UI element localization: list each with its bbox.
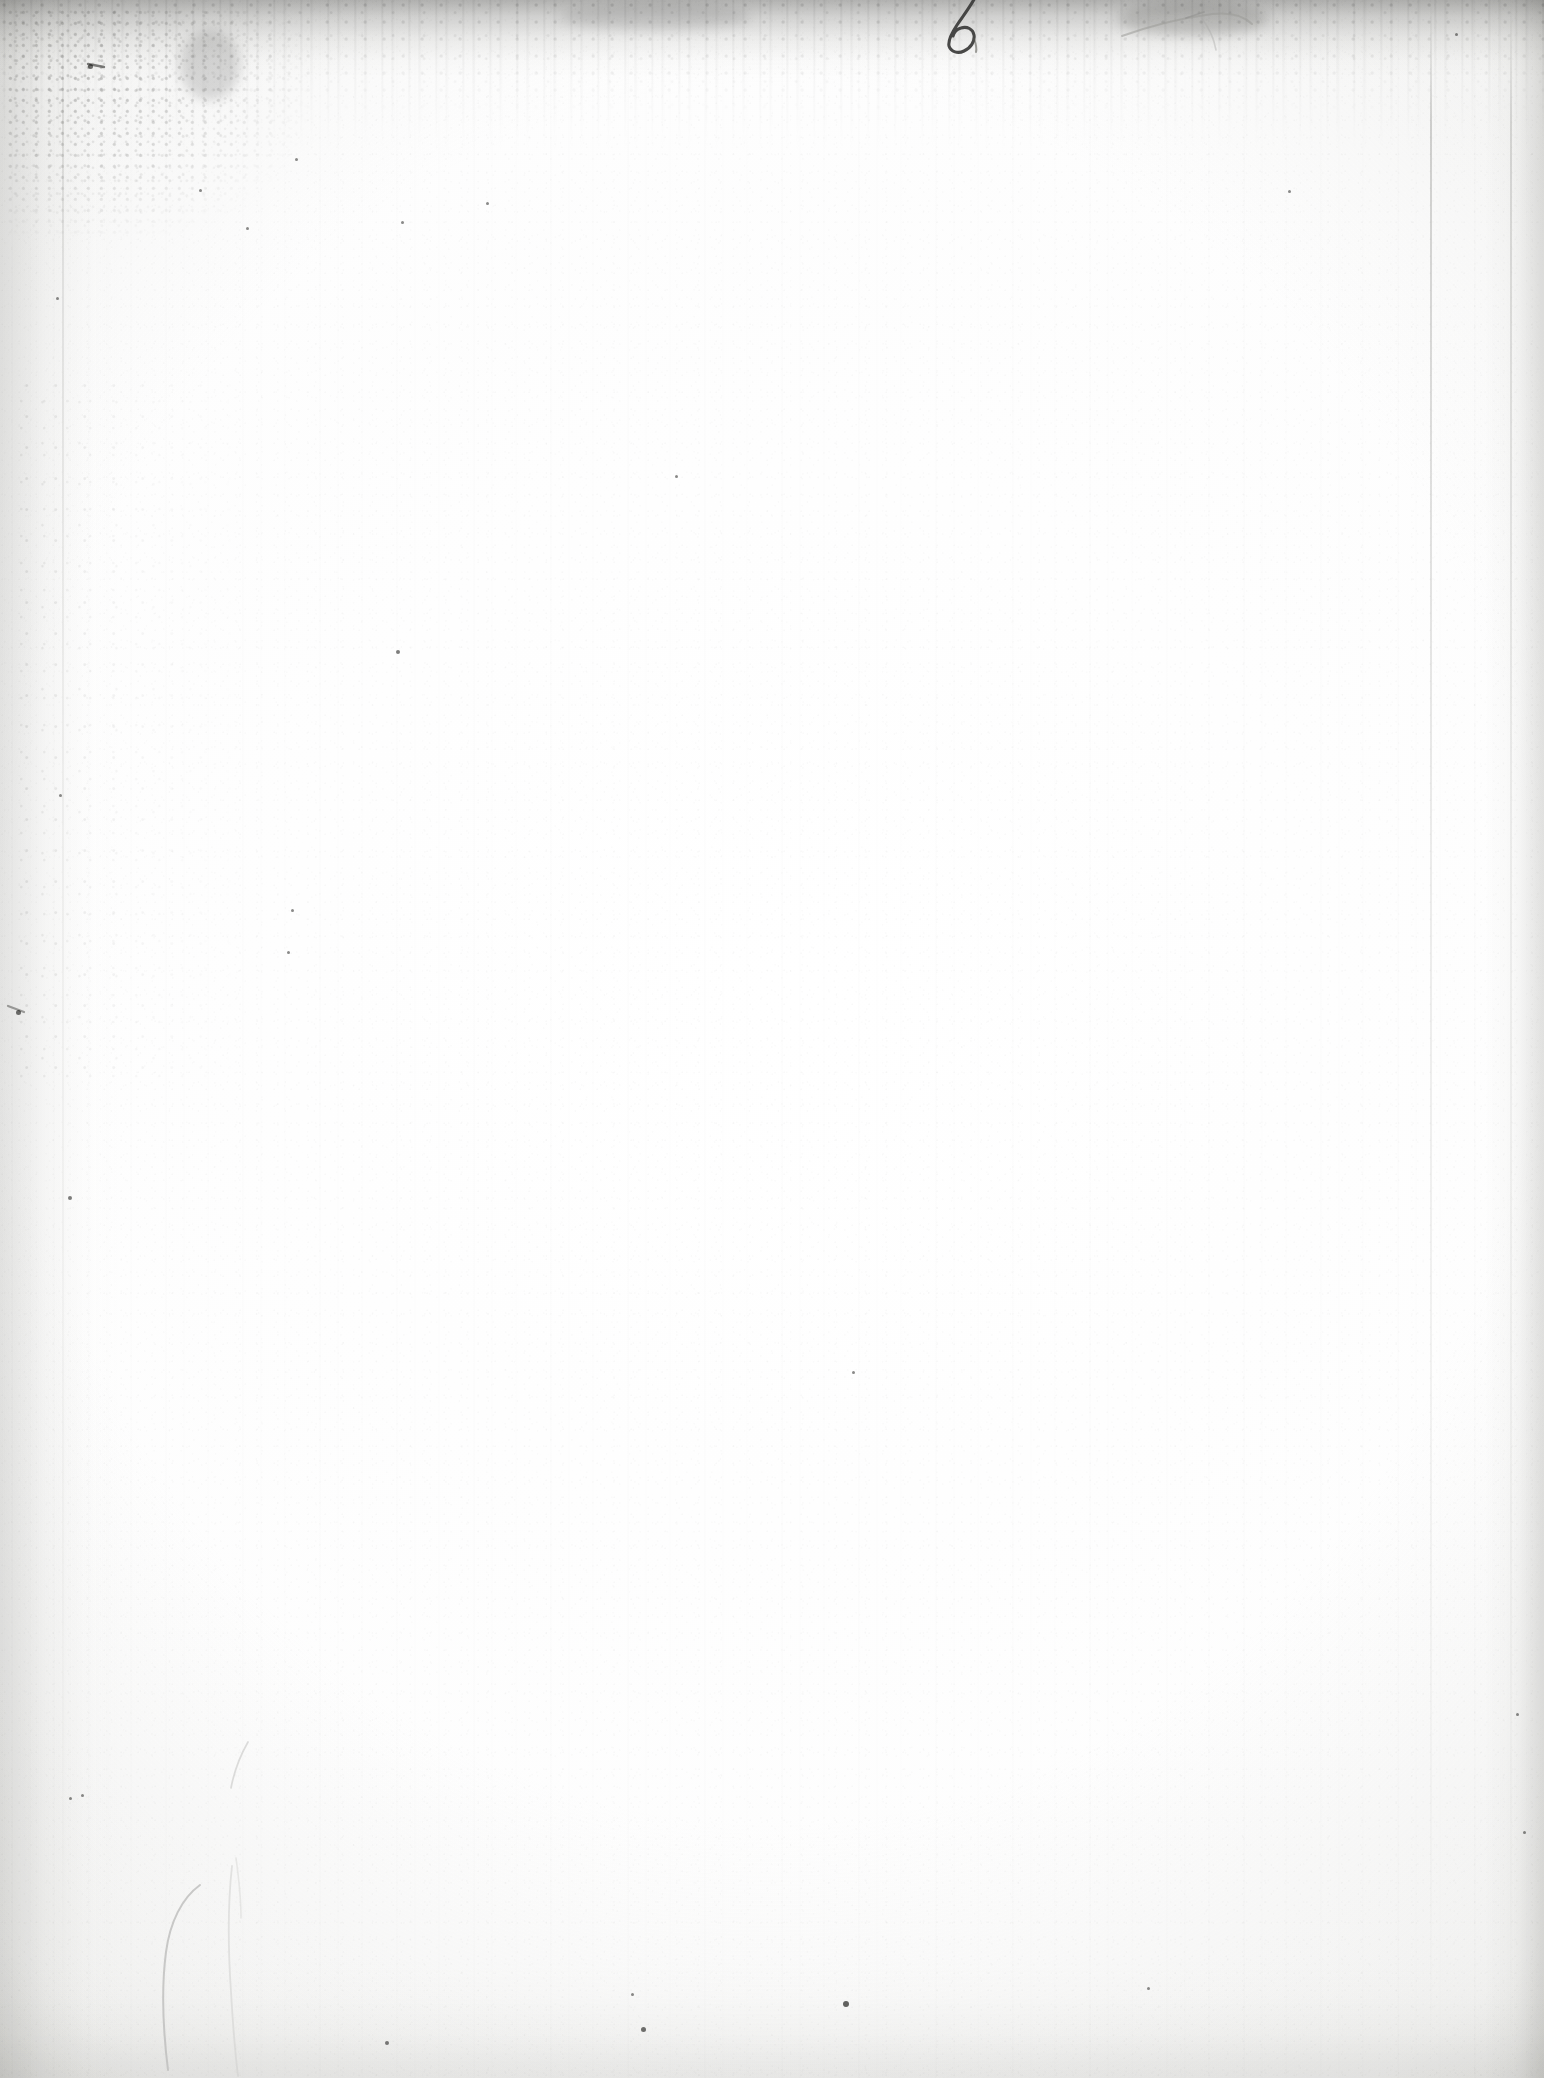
scanned-page: [0, 0, 1544, 2078]
paper-speck: [59, 794, 62, 797]
paper-speck: [16, 1010, 21, 1015]
paper-speck: [1455, 33, 1458, 36]
scan-vignette: [0, 0, 1544, 2078]
paper-speck: [287, 951, 290, 954]
paper-speck: [291, 909, 294, 912]
paper-speck: [385, 2041, 389, 2045]
right-margin-shadow: [1484, 0, 1544, 2078]
paper-speck: [81, 1794, 84, 1797]
paper-speck: [295, 158, 298, 161]
paper-speck: [396, 650, 400, 654]
paper-speck: [246, 227, 249, 230]
paper-speck: [401, 221, 404, 224]
paper-speck: [1523, 1831, 1526, 1834]
vertical-crease-right-outer: [1510, 0, 1512, 2078]
paper-speck: [56, 297, 59, 300]
pencil-smudge-top-right: [1118, 2, 1268, 36]
paper-speck: [88, 64, 93, 69]
paper-speck: [631, 1993, 634, 1996]
paper-speck: [1516, 1713, 1519, 1716]
paper-speck: [68, 1196, 72, 1200]
left-margin-shadow: [0, 0, 120, 2078]
paper-speck: [69, 1797, 72, 1800]
paper-speck: [1147, 1987, 1150, 1990]
paper-speck: [641, 2027, 646, 2032]
paper-speck: [486, 202, 489, 205]
vertical-crease-right-inner: [1430, 0, 1432, 2078]
vertical-crease-left: [62, 0, 64, 2078]
paper-speck: [852, 1371, 855, 1374]
dark-blot-top-left: [180, 30, 240, 100]
bottom-edge-dust-band: [0, 1958, 1544, 2078]
smudge-top-center: [560, 4, 750, 30]
paper-speck: [199, 189, 202, 192]
paper-speck: [843, 2001, 849, 2007]
paper-speck: [675, 475, 678, 478]
paper-speck: [1288, 190, 1291, 193]
